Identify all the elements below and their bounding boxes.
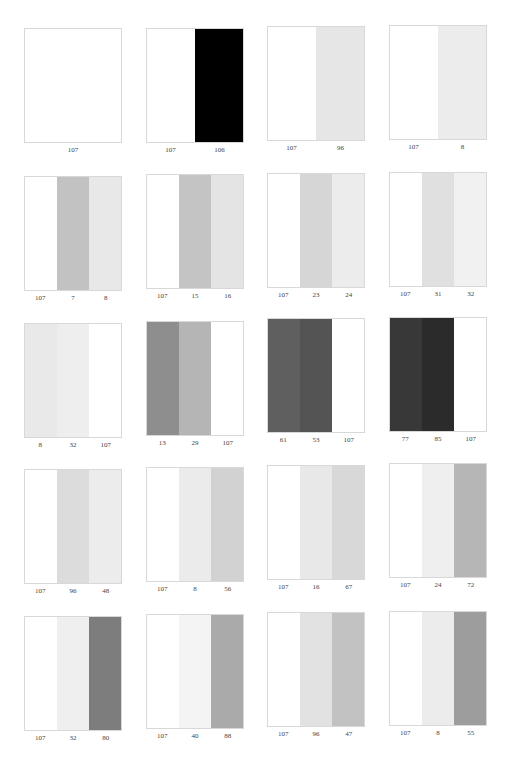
swatch-strip — [268, 174, 300, 287]
swatch-label: 96 — [316, 144, 365, 153]
swatch-label: 107 — [267, 144, 316, 153]
swatch-patch-r1c3 — [267, 26, 365, 141]
swatch-label: 107 — [211, 439, 244, 448]
swatch-label: 107 — [389, 290, 422, 299]
swatch-strip — [147, 322, 179, 435]
swatch-label: 29 — [179, 439, 212, 448]
swatch-strip — [332, 319, 364, 432]
swatch-labels-r1c3: 10796 — [267, 144, 365, 153]
swatch-strip — [25, 324, 57, 437]
swatch-labels-r2c1: 10778 — [24, 294, 122, 303]
swatch-strip — [211, 468, 243, 581]
swatch-label: 107 — [389, 581, 422, 590]
swatch-strip — [300, 319, 332, 432]
swatch-label: 96 — [300, 730, 333, 739]
swatch-strip — [179, 615, 211, 728]
swatch-strip — [422, 318, 454, 431]
swatch-label: 16 — [211, 292, 244, 301]
swatch-label: 107 — [332, 436, 365, 445]
swatch-strip — [195, 29, 243, 142]
swatch-label: 32 — [454, 290, 487, 299]
swatch-strip — [300, 174, 332, 287]
swatch-strip — [422, 173, 454, 286]
swatch-patch-r5c1 — [24, 616, 122, 731]
swatch-strip — [422, 464, 454, 577]
swatch-strip — [57, 324, 89, 437]
swatch-label: 56 — [211, 585, 244, 594]
swatch-label: 77 — [389, 435, 422, 444]
swatch-strip — [454, 173, 486, 286]
swatch-strip — [268, 319, 300, 432]
swatch-labels-r5c4: 107855 — [389, 729, 487, 738]
swatch-strip — [332, 613, 364, 726]
swatch-strip — [25, 29, 121, 142]
swatch-label: 32 — [57, 734, 90, 743]
swatch-patch-r2c1 — [24, 176, 122, 291]
swatch-label: 7 — [57, 294, 90, 303]
swatch-patch-r1c2 — [146, 28, 244, 143]
swatch-strip — [454, 318, 486, 431]
swatch-strip — [390, 26, 438, 139]
swatch-label: 23 — [300, 291, 333, 300]
swatch-label: 107 — [146, 585, 179, 594]
swatch-labels-r4c3: 1071667 — [267, 583, 365, 592]
swatch-labels-r4c2: 107856 — [146, 585, 244, 594]
swatch-label: 107 — [267, 291, 300, 300]
swatch-strip — [422, 612, 454, 725]
swatch-label: 107 — [389, 729, 422, 738]
swatch-label: 48 — [89, 587, 122, 596]
swatch-label: 61 — [267, 436, 300, 445]
swatch-patch-r2c2 — [146, 174, 244, 289]
swatch-label: 107 — [389, 143, 438, 152]
swatch-strip — [438, 26, 486, 139]
swatch-strip — [332, 466, 364, 579]
swatch-strip — [89, 324, 121, 437]
swatch-strip — [390, 173, 422, 286]
swatch-strip — [25, 177, 57, 290]
swatch-label: 8 — [422, 729, 455, 738]
swatch-label: 80 — [89, 734, 122, 743]
swatch-strip — [390, 318, 422, 431]
swatch-label: 96 — [57, 587, 90, 596]
swatch-label: 8 — [179, 585, 212, 594]
swatch-patch-r4c3 — [267, 465, 365, 580]
swatch-strip — [147, 29, 195, 142]
swatch-labels-r4c1: 1079648 — [24, 587, 122, 596]
swatch-strip — [89, 470, 121, 583]
swatch-label: 107 — [146, 292, 179, 301]
swatch-label: 107 — [24, 587, 57, 596]
swatch-strip — [25, 470, 57, 583]
swatch-strip — [332, 174, 364, 287]
swatch-strip — [454, 612, 486, 725]
swatch-label: 55 — [454, 729, 487, 738]
swatch-label: 40 — [179, 732, 212, 741]
swatch-labels-r5c2: 1074088 — [146, 732, 244, 741]
swatch-strip — [211, 615, 243, 728]
swatch-label: 107 — [24, 146, 122, 155]
swatch-label: 32 — [57, 441, 90, 450]
swatch-patch-r2c3 — [267, 173, 365, 288]
swatch-strip — [147, 468, 179, 581]
swatch-patch-r5c3 — [267, 612, 365, 727]
swatch-strip — [179, 175, 211, 288]
swatch-label: 8 — [438, 143, 487, 152]
swatch-labels-r1c4: 1078 — [389, 143, 487, 152]
swatch-labels-r2c3: 1072324 — [267, 291, 365, 300]
swatch-patch-r2c4 — [389, 172, 487, 287]
swatch-strip — [179, 322, 211, 435]
swatch-label: 13 — [146, 439, 179, 448]
swatch-labels-r3c1: 832107 — [24, 441, 122, 450]
swatch-strip — [300, 466, 332, 579]
swatch-patch-r5c2 — [146, 614, 244, 729]
swatch-patch-r3c3 — [267, 318, 365, 433]
swatch-strip — [268, 27, 316, 140]
swatch-labels-r3c3: 6153107 — [267, 436, 365, 445]
swatch-label: 107 — [146, 732, 179, 741]
swatch-strip — [211, 322, 243, 435]
swatch-labels-r1c2: 107106 — [146, 146, 244, 155]
swatch-label: 107 — [267, 583, 300, 592]
swatch-strip — [57, 470, 89, 583]
swatch-strip — [25, 617, 57, 730]
swatch-label: 53 — [300, 436, 333, 445]
swatch-strip — [268, 613, 300, 726]
